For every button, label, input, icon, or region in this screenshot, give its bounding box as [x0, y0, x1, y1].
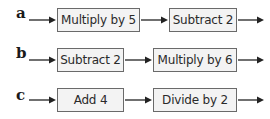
- function-box: Multiply by 5: [57, 8, 140, 32]
- arrow-right-icon: [29, 95, 56, 105]
- arrow-right-icon: [125, 55, 152, 65]
- function-box: Add 4: [57, 88, 124, 112]
- arrow-right-icon: [141, 15, 168, 25]
- arrow-right-icon: [125, 95, 152, 105]
- function-box: Multiply by 6: [153, 48, 237, 72]
- arrow-right-icon: [238, 55, 264, 65]
- function-box: Divide by 2: [153, 88, 237, 112]
- function-box: Subtract 2: [57, 48, 124, 72]
- row-label: a: [16, 6, 26, 21]
- function-box: Subtract 2: [169, 8, 237, 32]
- arrow-right-icon: [29, 55, 56, 65]
- arrow-right-icon: [238, 15, 264, 25]
- arrow-right-icon: [238, 95, 264, 105]
- arrow-right-icon: [29, 15, 56, 25]
- row-label: b: [16, 46, 27, 61]
- row-label: c: [16, 88, 25, 103]
